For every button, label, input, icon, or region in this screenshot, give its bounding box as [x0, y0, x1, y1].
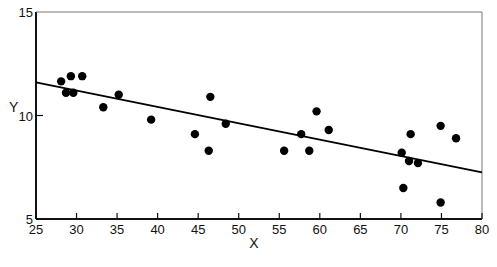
data-point — [69, 89, 77, 97]
x-tick-label: 55 — [272, 222, 286, 237]
data-point — [325, 126, 333, 134]
data-point — [312, 107, 320, 115]
data-point — [406, 130, 414, 138]
y-tick-label: 10 — [19, 109, 33, 124]
data-point — [205, 146, 213, 154]
data-point — [191, 130, 199, 138]
x-tick-label: 65 — [353, 222, 367, 237]
x-tick-label: 75 — [434, 222, 448, 237]
data-point — [99, 103, 107, 111]
x-tick-label: 60 — [313, 222, 327, 237]
y-axis-ticks: 51015 — [19, 5, 43, 227]
plot-frame — [36, 12, 482, 219]
data-point — [452, 134, 460, 142]
data-point — [67, 72, 75, 80]
y-tick-label: 15 — [19, 5, 33, 20]
data-points — [57, 72, 460, 207]
y-tick-label: 5 — [26, 212, 33, 227]
data-point — [57, 77, 65, 85]
data-point — [414, 159, 422, 167]
data-point — [398, 149, 406, 157]
data-point — [399, 184, 407, 192]
regression-line — [36, 82, 482, 172]
x-tick-label: 70 — [394, 222, 408, 237]
data-point — [405, 157, 413, 165]
data-point — [297, 130, 305, 138]
data-point — [62, 89, 70, 97]
x-tick-label: 50 — [231, 222, 245, 237]
y-axis-label: Y — [9, 99, 19, 115]
data-point — [436, 122, 444, 130]
x-tick-label: 30 — [69, 222, 83, 237]
x-tick-label: 45 — [191, 222, 205, 237]
data-point — [147, 115, 155, 123]
data-point — [206, 93, 214, 101]
data-point — [280, 146, 288, 154]
x-axis-label: X — [249, 235, 259, 251]
data-point — [115, 91, 123, 99]
data-point — [78, 72, 86, 80]
data-point — [305, 146, 313, 154]
x-tick-label: 40 — [150, 222, 164, 237]
data-point — [436, 198, 444, 206]
x-tick-label: 80 — [475, 222, 489, 237]
x-tick-label: 35 — [110, 222, 124, 237]
scatter-plot: 253035404550556065707580 51015 X Y — [0, 0, 497, 267]
x-axis-ticks: 253035404550556065707580 — [29, 213, 489, 237]
data-point — [222, 120, 230, 128]
